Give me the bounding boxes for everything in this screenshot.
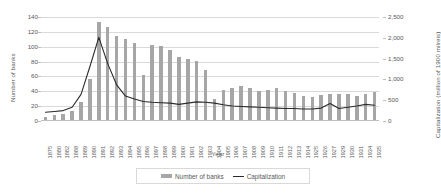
legend-item-number-of-banks: Number of banks [161, 173, 224, 180]
x-axis-tick-label: 1905 [226, 146, 232, 158]
legend-label-number-of-banks: Number of banks [175, 173, 224, 180]
x-axis-tick-label: 1910 [270, 146, 276, 158]
x-axis-tick-label: 1896 [145, 146, 151, 158]
y-axis-right-tickmark [383, 17, 386, 18]
y-axis-right-tick-label: 1,000 [388, 76, 403, 82]
legend-line-swatch-icon [233, 176, 244, 177]
line-series-capitalization [41, 17, 379, 121]
x-axis-tick-label: 1908 [252, 146, 258, 158]
y-axis-left-tick-label: 120 [28, 29, 38, 35]
y-axis-left-tick-label: 60 [31, 73, 38, 79]
x-axis-tick-label: 1904 [217, 146, 223, 158]
legend-bar-swatch-icon [161, 174, 172, 178]
x-axis-tick-label: 1911 [279, 146, 285, 158]
x-axis-tick-label: 1927 [332, 146, 338, 158]
y-axis-left-tick-label: 140 [28, 14, 38, 20]
y-axis-right-tick-label: 2,500 [388, 14, 403, 20]
x-axis-tick-label: 1903 [208, 146, 214, 158]
x-axis-tick-label: 1902 [199, 146, 205, 158]
y-axis-right-tick-label: 1,500 [388, 56, 403, 62]
legend-item-capitalization: Capitalization [233, 173, 285, 180]
x-axis-tick-label: 1935 [377, 146, 383, 158]
y-axis-left-title: Number of banks [1, 30, 11, 105]
y-axis-right-tick-label: 0 [388, 118, 391, 124]
y-axis-right-tickmark [383, 79, 386, 80]
y-axis-right-ticks: 05001,0001,5002,0002,500 [383, 17, 413, 121]
y-axis-right-tick-label: 2,000 [388, 35, 403, 41]
x-axis-tick-labels: 1875188018821888188918901891189218931894… [41, 122, 379, 148]
x-axis-tick-label: 1925 [314, 146, 320, 158]
x-axis-tick-label: 1895 [137, 146, 143, 158]
y-axis-left-tick-label: 100 [28, 44, 38, 50]
x-axis-tick-label: 1892 [110, 146, 116, 158]
legend-label-capitalization: Capitalization [247, 173, 285, 180]
x-axis-tick-label: 1893 [119, 146, 125, 158]
x-axis-tick-label: 1880 [57, 146, 63, 158]
x-axis-tick-label: 1891 [101, 146, 107, 158]
x-axis-tick-label: 1894 [128, 146, 134, 158]
y-axis-left-tick-label: 40 [31, 88, 38, 94]
x-axis-tick-label: 1882 [65, 146, 71, 158]
y-axis-left-tick-label: 80 [31, 59, 38, 65]
x-axis-tick-label: 1899 [172, 146, 178, 158]
y-axis-right-tickmark [383, 38, 386, 39]
x-axis-tick-label: 1906 [234, 146, 240, 158]
y-axis-right-title: Capitalization (million of 1900 milreis) [426, 14, 436, 134]
x-axis-tick-label: 1926 [323, 146, 329, 158]
x-axis-tick-label: 1900 [181, 146, 187, 158]
y-axis-right-tickmark [383, 59, 386, 60]
x-axis-tick-label: 1889 [83, 146, 89, 158]
x-axis-tick-label: 1890 [92, 146, 98, 158]
x-axis-tick-label: 1913 [297, 146, 303, 158]
x-axis-tick-label: 1934 [368, 146, 374, 158]
y-axis-right-tick-label: 500 [388, 97, 398, 103]
y-axis-right-tickmark [383, 100, 386, 101]
x-axis-tick-label: 1930 [350, 146, 356, 158]
x-axis-tick-label: 1912 [288, 146, 294, 158]
x-axis-tick-label: 1897 [154, 146, 160, 158]
y-axis-left-ticks: 020406080100120140 [14, 17, 38, 121]
x-axis-baseline [41, 120, 379, 121]
y-axis-right-title-text: Capitalization (million of 1900 milreis) [434, 32, 441, 138]
x-axis-tick-label: 1888 [74, 146, 80, 158]
plot-area [41, 17, 379, 121]
x-axis-tick-label: 1931 [359, 146, 365, 158]
y-axis-right-tickmark [383, 121, 386, 122]
chart-legend: Number of banks Capitalization [136, 168, 310, 184]
x-axis-tick-label: 1898 [163, 146, 169, 158]
y-axis-left-tick-label: 20 [31, 103, 38, 109]
x-axis-tick-label: 1901 [190, 146, 196, 158]
x-axis-tick-label: 1914 [306, 146, 312, 158]
x-axis-tick-label: 1929 [341, 146, 347, 158]
x-axis-tick-label: 1909 [261, 146, 267, 158]
x-axis-tick-label: 1875 [48, 146, 54, 158]
x-axis-tick-label: 1907 [243, 146, 249, 158]
